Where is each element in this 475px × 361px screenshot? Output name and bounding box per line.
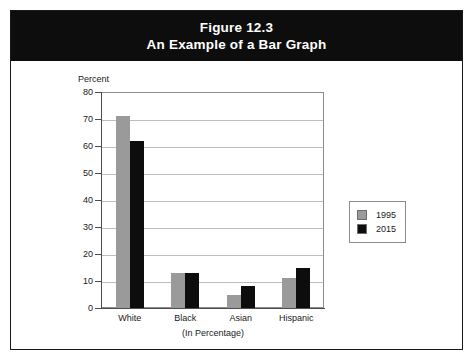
- x-axis-tick-label: Hispanic: [279, 313, 314, 323]
- y-axis-tick-label: 30: [57, 222, 93, 232]
- chart-legend: 19952015: [349, 201, 406, 243]
- y-axis-tick: [95, 92, 101, 93]
- y-axis-tick: [95, 173, 101, 174]
- y-axis-title: Percent: [78, 74, 109, 84]
- x-axis-tick-label: Asian: [229, 313, 252, 323]
- x-axis-tick-label: Black: [174, 313, 196, 323]
- figure-title: An Example of a Bar Graph: [147, 36, 327, 53]
- bars-layer: [102, 92, 324, 308]
- y-axis-tick-label: 0: [57, 303, 93, 313]
- legend-label: 1995: [376, 210, 396, 220]
- bar-black-2015: [185, 273, 199, 308]
- legend-item-2015: 2015: [357, 222, 396, 236]
- y-axis-tick: [95, 281, 101, 282]
- x-axis-title: (In Percentage): [102, 328, 324, 338]
- y-axis-tick: [95, 227, 101, 228]
- y-axis-tick-label: 10: [57, 276, 93, 286]
- bar-hispanic-1995: [282, 278, 296, 308]
- x-axis-line: [100, 308, 325, 309]
- bar-group: [282, 92, 310, 308]
- y-axis-tick: [95, 119, 101, 120]
- legend-swatch-icon: [357, 224, 367, 234]
- y-axis-tick-label: 80: [57, 87, 93, 97]
- bar-group: [171, 92, 199, 308]
- bar-hispanic-2015: [296, 268, 310, 309]
- bar-white-1995: [116, 116, 130, 308]
- legend-swatch-icon: [357, 210, 367, 220]
- bar-asian-1995: [227, 295, 241, 309]
- y-axis-tick-labels: 01020304050607080: [53, 92, 93, 308]
- y-axis-tick-label: 70: [57, 114, 93, 124]
- y-axis-tick: [95, 254, 101, 255]
- y-axis-tick-label: 40: [57, 195, 93, 205]
- chart-region: Percent 01020304050607080 WhiteBlackAsia…: [11, 61, 462, 349]
- y-axis-tick: [95, 200, 101, 201]
- legend-label: 2015: [376, 224, 396, 234]
- figure-title-banner: Figure 12.3 An Example of a Bar Graph: [11, 11, 462, 61]
- bar-black-1995: [171, 273, 185, 308]
- legend-item-1995: 1995: [357, 208, 396, 222]
- y-axis-tick-label: 20: [57, 249, 93, 259]
- x-axis-tick-label: White: [118, 313, 141, 323]
- y-axis-tick-label: 60: [57, 141, 93, 151]
- y-axis-tick-label: 50: [57, 168, 93, 178]
- y-axis-tick: [95, 146, 101, 147]
- x-axis-tick-labels: WhiteBlackAsianHispanic: [102, 313, 324, 327]
- bar-white-2015: [130, 141, 144, 308]
- figure-number: Figure 12.3: [200, 19, 273, 36]
- y-axis-tick: [95, 308, 101, 309]
- bar-group: [227, 92, 255, 308]
- bar-asian-2015: [241, 286, 255, 308]
- figure-card: Figure 12.3 An Example of a Bar Graph Pe…: [10, 10, 463, 350]
- bar-group: [116, 92, 144, 308]
